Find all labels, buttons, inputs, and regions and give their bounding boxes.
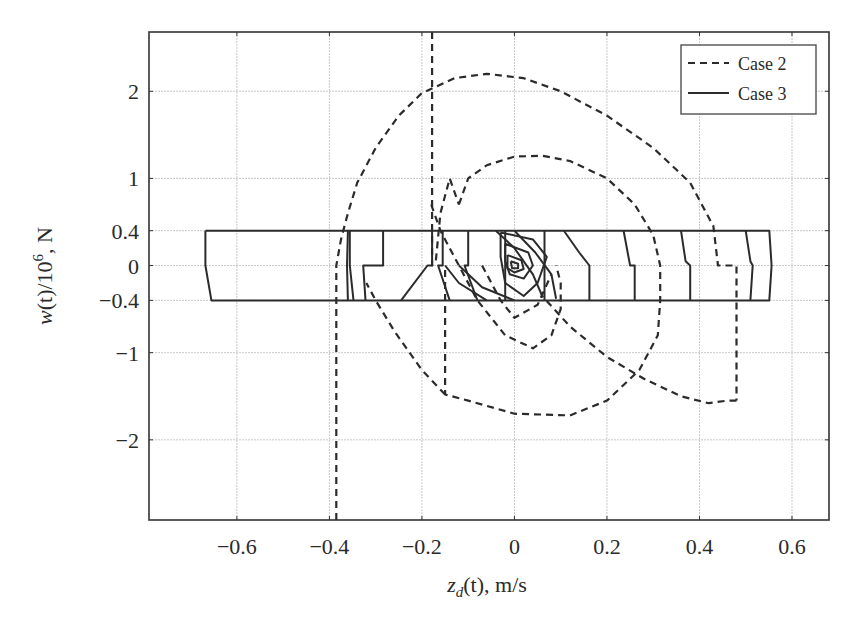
x-tick-label: 0.4	[686, 534, 714, 559]
y-tick-label: −1	[116, 341, 139, 366]
series-path	[363, 231, 383, 301]
series-path	[336, 74, 736, 520]
series-path	[681, 231, 690, 301]
series-path	[624, 231, 635, 301]
y-tick-label: −0.4	[99, 288, 139, 313]
legend: Case 2 Case 3	[681, 45, 816, 114]
series-case-2	[336, 32, 736, 520]
x-tick-label: 0	[509, 534, 520, 559]
series-path	[347, 231, 348, 301]
series-path	[542, 296, 736, 403]
legend-label-case-2: Case 2	[738, 54, 787, 74]
y-tick-label: 2	[128, 79, 139, 104]
x-tick-label: −0.4	[309, 534, 349, 559]
x-tick-label: −0.6	[217, 534, 257, 559]
x-tick-label: −0.2	[402, 534, 442, 559]
y-tick-label: 1	[128, 166, 139, 191]
y-tick-label: 0.4	[112, 219, 140, 244]
x-tick-label: 0.2	[593, 534, 621, 559]
y-tick-label: 0	[128, 254, 139, 279]
y-tick-label: −2	[116, 428, 139, 453]
legend-label-case-3: Case 3	[738, 84, 787, 104]
x-tick-label: 0.6	[778, 534, 806, 559]
series-path	[431, 205, 561, 349]
x-axis-label: zd(t), m/s	[446, 572, 527, 600]
phase-plot-chart: −0.6−0.4−0.200.20.40.6 210.40−0.4−1−2 zd…	[0, 0, 868, 625]
y-axis-label: w(t)/106, N	[30, 227, 57, 325]
series-path	[505, 244, 533, 279]
